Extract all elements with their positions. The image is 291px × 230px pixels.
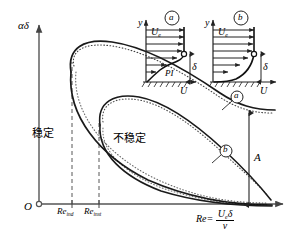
callout-b-label: b: [223, 145, 228, 154]
curve-b-upper-stipple: [103, 99, 268, 196]
origin-label: O: [24, 201, 32, 212]
y-axis-label: αδ: [18, 20, 29, 31]
x-axis-num-sub: e: [225, 214, 228, 220]
inset-a-delta-label: δ: [192, 62, 197, 72]
region-label-stable: 稳定: [32, 128, 54, 139]
region-label-unstable: 不稳定: [113, 133, 146, 144]
inset-a-x-label: U: [180, 86, 187, 96]
inset-b-freestream-label: Ue: [218, 27, 228, 37]
inset-a-freestream-label: Ue: [151, 27, 161, 37]
callout-a-label: a: [234, 91, 239, 100]
callout-a-leader: [222, 101, 232, 110]
inset-a-badge-label: a: [169, 13, 174, 22]
tick-label-re-inst-main: Re: [84, 206, 94, 216]
x-axis-num-delta: δ: [228, 208, 233, 219]
x-axis-label-prefix: Re=: [196, 213, 213, 224]
inset-b-x-label: U: [260, 86, 267, 96]
tick-label-re-ind: Reind: [57, 207, 73, 216]
tick-label-re-inst: Reinst: [84, 207, 101, 216]
inset-b-graphic: [209, 11, 276, 87]
x-axis-label-numerator: Ueδ: [216, 209, 235, 221]
origin-marker: [36, 201, 41, 206]
x-axis-label-fraction: Ueδ ν: [216, 209, 235, 229]
tick-label-re-ind-sub: ind: [67, 211, 74, 217]
inset-a-edge-marker: [181, 51, 186, 56]
callout-b-leader: [212, 155, 221, 163]
inset-a-profile-label: PI: [165, 69, 174, 78]
curve-a-upper-stipple: [73, 45, 272, 113]
x-axis-num-u: U: [218, 208, 225, 219]
tick-label-re-ind-main: Re: [57, 206, 67, 216]
inset-b-edge-marker: [251, 51, 256, 56]
neutral-curve-b: [100, 96, 272, 206]
inset-b-delta-label: δ: [263, 62, 268, 72]
inset-a-ue-sub: e: [158, 32, 161, 38]
inset-b-ue-sub: e: [225, 32, 228, 38]
inset-a-y-label: y: [138, 18, 142, 28]
tick-label-re-inst-sub: inst: [94, 211, 102, 217]
figure-canvas: [0, 0, 291, 229]
inset-b-y-label: y: [205, 18, 209, 28]
amplitude-label: A: [254, 152, 261, 163]
neutral-stability-figure: αδ O Reind Reinst 稳定 不稳定 a b A Re= Ueδ ν…: [0, 0, 291, 229]
x-axis-label-denominator: ν: [216, 221, 235, 230]
x-axis-label: Re= Ueδ ν: [196, 209, 234, 229]
curve-b-upper-branch: [100, 96, 271, 200]
neutral-curve-a: [70, 41, 275, 205]
inset-b-badge-label: b: [238, 13, 243, 22]
